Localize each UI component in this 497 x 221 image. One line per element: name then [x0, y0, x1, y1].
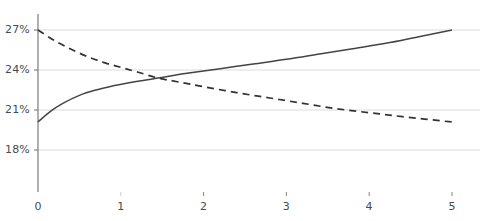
series-line-increasing-curve	[38, 30, 452, 122]
chart-container: 27%24%21%18% 012345	[0, 0, 497, 221]
chart-plot-area	[0, 0, 497, 221]
x-axis-tick-label: 0	[18, 201, 58, 212]
x-axis-tick-label: 5	[432, 201, 472, 212]
gridlines	[38, 30, 480, 150]
axis-lines	[38, 14, 480, 192]
series-line-decreasing-curve	[38, 30, 452, 122]
y-axis-tick-label: 21%	[5, 104, 30, 115]
y-axis-tick-label: 24%	[5, 64, 30, 75]
axis-ticks	[34, 30, 452, 196]
data-series	[38, 30, 452, 122]
x-axis-tick-label: 4	[349, 201, 389, 212]
x-axis-tick-label: 3	[266, 201, 306, 212]
y-axis-tick-label: 27%	[5, 24, 30, 35]
x-axis-tick-label: 2	[184, 201, 224, 212]
x-axis-tick-label: 1	[101, 201, 141, 212]
y-axis-tick-label: 18%	[5, 144, 30, 155]
